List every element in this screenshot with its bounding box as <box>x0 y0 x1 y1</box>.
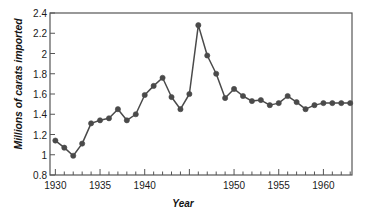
data-point-marker <box>169 94 174 99</box>
data-point-marker <box>187 91 192 96</box>
data-point-marker <box>97 118 102 123</box>
data-point-marker <box>303 107 308 112</box>
data-point-marker <box>196 23 201 28</box>
data-point-marker <box>321 101 326 106</box>
plot-frame <box>50 13 352 175</box>
data-point-marker <box>115 107 120 112</box>
data-point-marker <box>133 112 138 117</box>
data-point-marker <box>240 93 245 98</box>
data-point-marker <box>258 97 263 102</box>
series-line <box>55 25 350 156</box>
data-point-marker <box>330 101 335 106</box>
data-point-marker <box>124 118 129 123</box>
data-point-marker <box>80 141 85 146</box>
data-point-marker <box>205 53 210 58</box>
chart-figure: Millions of carats imported Year 0.811.2… <box>0 0 366 215</box>
data-point-marker <box>160 75 165 80</box>
line-chart-plot <box>0 0 366 215</box>
data-point-marker <box>312 103 317 108</box>
data-point-marker <box>231 86 236 91</box>
data-point-marker <box>294 100 299 105</box>
data-point-marker <box>276 101 281 106</box>
data-point-marker <box>214 71 219 76</box>
data-point-marker <box>249 98 254 103</box>
data-point-marker <box>53 138 58 143</box>
data-point-marker <box>267 103 272 108</box>
data-point-marker <box>106 116 111 121</box>
data-point-marker <box>89 121 94 126</box>
data-point-marker <box>285 93 290 98</box>
data-point-marker <box>339 101 344 106</box>
data-point-marker <box>62 145 67 150</box>
data-point-marker <box>223 95 228 100</box>
data-point-marker <box>178 107 183 112</box>
data-point-marker <box>71 153 76 158</box>
data-point-marker <box>142 92 147 97</box>
data-point-marker <box>151 83 156 88</box>
data-point-marker <box>348 101 353 106</box>
